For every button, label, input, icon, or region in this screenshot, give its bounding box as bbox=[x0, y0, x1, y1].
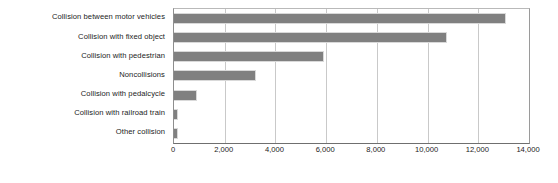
bar-row bbox=[174, 105, 529, 124]
category-label-row: Noncollisions bbox=[0, 65, 169, 84]
value-tick-label: 2,000 bbox=[214, 145, 233, 154]
value-tick-label: 6,000 bbox=[316, 145, 335, 154]
category-label: Collision with fixed object bbox=[78, 33, 165, 41]
category-label: Collision between motor vehicles bbox=[52, 13, 165, 21]
bar-row bbox=[174, 124, 529, 143]
category-label-row: Other collision bbox=[0, 123, 169, 142]
value-tick-label: 10,000 bbox=[415, 145, 438, 154]
category-label: Other collision bbox=[116, 128, 165, 136]
bar bbox=[174, 70, 256, 81]
bar-series bbox=[174, 9, 529, 143]
value-axis-labels: 02,0004,0006,0008,00010,00012,00014,000 bbox=[173, 145, 528, 161]
category-label-row: Collision with fixed object bbox=[0, 27, 169, 46]
category-label: Collision with pedestrian bbox=[81, 52, 165, 60]
category-label-row: Collision with pedestrian bbox=[0, 46, 169, 65]
bar bbox=[174, 13, 506, 24]
bar bbox=[174, 90, 197, 101]
bar bbox=[174, 51, 324, 62]
value-tick-label: 8,000 bbox=[366, 145, 385, 154]
category-label-row: Collision between motor vehicles bbox=[0, 8, 169, 27]
plot-area bbox=[173, 8, 530, 144]
bar-row bbox=[174, 9, 529, 28]
bar-chart: Collision between motor vehicles Collisi… bbox=[0, 0, 558, 183]
bar-row bbox=[174, 47, 529, 66]
category-label-row: Collision with pedalcycle bbox=[0, 85, 169, 104]
bar-row bbox=[174, 28, 529, 47]
value-tick-label: 4,000 bbox=[265, 145, 284, 154]
value-tick-label: 12,000 bbox=[466, 145, 489, 154]
category-axis-labels: Collision between motor vehicles Collisi… bbox=[0, 8, 169, 142]
category-label: Collision with railroad train bbox=[74, 109, 165, 117]
value-tick-label: 0 bbox=[171, 145, 175, 154]
value-tick-label: 14,000 bbox=[516, 145, 539, 154]
bar bbox=[174, 32, 447, 43]
category-label: Collision with pedalcycle bbox=[81, 90, 165, 98]
bar-row bbox=[174, 66, 529, 85]
category-label: Noncollisions bbox=[119, 71, 165, 79]
bar-row bbox=[174, 86, 529, 105]
bar bbox=[174, 128, 178, 139]
bar bbox=[174, 109, 178, 120]
category-label-row: Collision with railroad train bbox=[0, 104, 169, 123]
